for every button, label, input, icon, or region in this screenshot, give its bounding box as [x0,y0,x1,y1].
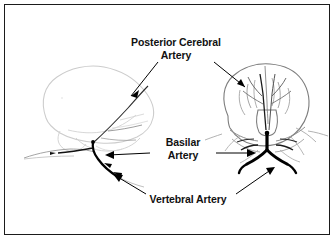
posterior-pca-branch-l2 [243,91,263,104]
posterior-vertebral-hook-right [287,164,296,173]
lateral-occipital-gyrus [120,114,144,120]
posterior-cerebral-artery-left [260,74,266,130]
label-basilar-artery-line1: Basilar [152,136,214,149]
posterior-gyrus-r2 [285,88,290,114]
lateral-brainstem-line-2 [24,156,74,159]
label-vertebral-artery-line1: Vertebral Artery [132,193,244,206]
posterior-gyrus-l3 [254,80,257,108]
lateral-basilar-apex-node [91,140,95,144]
posterior-cerebellar-branch-4 [290,136,304,155]
leader-vertebral-right-arrowhead [266,167,275,175]
posterior-pca-branch-l1 [248,77,262,96]
lateral-interior-speck [61,97,63,99]
leader-vertebral-left-arrowhead [113,174,123,182]
posterior-vertebral-hook-left [239,164,247,173]
lateral-sylvian-fissure [68,115,136,133]
posterior-wing-right [308,131,328,136]
label-posterior-cerebral-artery-line1: Posterior Cerebral [118,36,234,49]
posterior-gyrus-r1 [278,82,280,108]
leader-basilar-left-line [108,153,150,155]
posterior-gyrus-l2 [239,90,245,115]
posterior-basilar-apex-node [265,131,270,136]
label-vertebral-artery: Vertebral Artery [132,193,244,206]
figure-container: Posterior Cerebral Artery Basilar Artery… [0,0,336,241]
lateral-posterior-cerebral-artery [93,86,148,143]
posterior-midline-fissure [265,66,268,124]
lateral-basilar-vertebral-trunk [93,142,118,177]
label-basilar-artery-line2: Artery [152,149,214,162]
label-basilar-artery: Basilar Artery [152,136,214,161]
label-posterior-cerebral-artery-line2: Artery [118,49,234,62]
lateral-stub-tip [50,152,56,155]
leader-vertebral-right-line [236,169,272,194]
brain-posterior-view [205,64,328,173]
leader-basilar-left-arrowhead [105,151,114,159]
brain-lateral-view [24,66,154,187]
label-posterior-cerebral-artery: Posterior Cerebral Artery [118,36,234,61]
leader-pca-right-arrowhead [237,79,245,87]
